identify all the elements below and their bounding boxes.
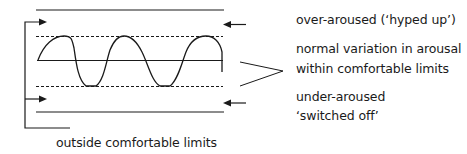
over-aroused-label: over-aroused (‘hyped up’)	[296, 12, 456, 28]
under-aroused-label-line2: ‘switched off’	[296, 108, 379, 124]
arrow-left-upper-icon	[223, 21, 231, 28]
arrow-right-lower-icon	[39, 96, 47, 103]
arrow-left-lower-icon	[223, 100, 231, 107]
under-aroused-label-line1: under-aroused	[296, 89, 385, 105]
normal-variation-label-line2: within comfortable limits	[296, 61, 449, 77]
arrow-right-upper-icon	[39, 19, 47, 26]
outside-limits-label: outside comfortable limits	[56, 135, 217, 151]
normal-variation-pointer	[240, 62, 283, 86]
normal-variation-label-line1: normal variation in arousal	[296, 41, 461, 57]
